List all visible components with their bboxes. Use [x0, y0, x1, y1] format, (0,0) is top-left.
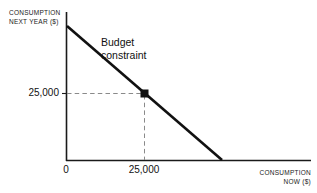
x-tick-label-25000: 25,000 — [114, 164, 174, 175]
x-axis-title: CONSUMPTION NOW ($) — [243, 169, 311, 186]
y-axis-title: CONSUMPTION NEXT YEAR ($) — [9, 9, 61, 26]
chosen-bundle-point-marker — [141, 90, 149, 98]
x-tick-label-origin: 0 — [57, 164, 75, 175]
budget-constraint-label: Budget constraint — [101, 36, 147, 61]
y-tick-label-25000: 25,000 — [0, 87, 59, 98]
budget-constraint-figure: CONSUMPTION NEXT YEAR ($) CONSUMPTION NO… — [0, 0, 317, 193]
